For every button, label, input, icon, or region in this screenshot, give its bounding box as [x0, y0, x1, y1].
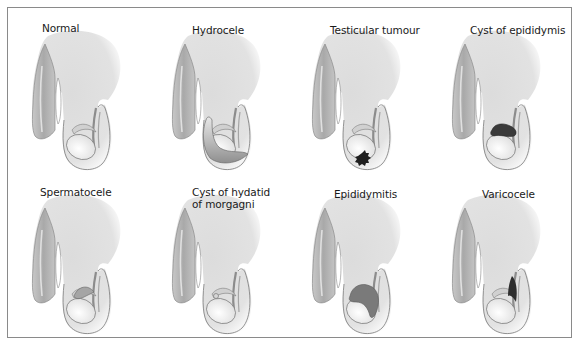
panel-label: Varicocele — [482, 188, 535, 200]
panel-label-line2: of morgagni — [192, 198, 254, 210]
panel-normal: Normal — [10, 8, 150, 173]
panel-varicocele: Varicocele — [430, 172, 570, 337]
panel-label: Hydrocele — [192, 24, 244, 36]
panel-label: Testicular tumour — [330, 24, 420, 36]
panel-label-line1: Cyst of hydatid — [192, 186, 270, 198]
panel-hydrocele: Hydrocele — [150, 8, 290, 173]
hydatid-cyst — [214, 294, 219, 299]
panel-epididymitis: Epididymitis — [290, 172, 430, 337]
panel-label: Spermatocele — [40, 186, 112, 198]
panel-testicular-tumour: Testicular tumour — [290, 8, 430, 173]
panel-label: Normal — [42, 22, 79, 34]
normal-anatomy-illustration — [10, 8, 150, 178]
panel-label: Cyst of epididymis — [470, 24, 565, 36]
panel-label: Epididymitis — [334, 188, 397, 200]
panel-cyst-of-epididymis: Cyst of epididymis — [430, 8, 570, 173]
panel-spermatocele: Spermatocele — [10, 172, 150, 337]
panel-cyst-of-hydatid-of-morgagni: Cyst of hydatid of morgagni — [150, 172, 290, 337]
